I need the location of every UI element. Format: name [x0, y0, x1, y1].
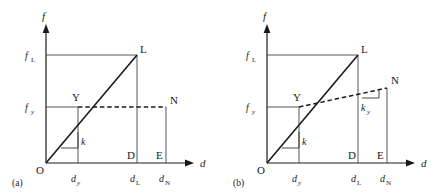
panel-caption-a: (a): [12, 178, 23, 189]
chart-panel-a: f d O f L f y d y d L d: [0, 0, 221, 194]
stiffness-ky-base-b: k: [361, 102, 366, 113]
figure-root: f d O f L f y d y d L d: [0, 0, 443, 194]
x-tick-dy-a: d y: [71, 173, 81, 187]
stiffness-ky-sub-b: y: [366, 108, 371, 116]
y-tick-fL-base-a: f: [25, 50, 29, 61]
y-tick-fL-a: f L: [25, 50, 35, 64]
x-axis-arrow-icon: [406, 160, 415, 167]
origin-label-a: O: [36, 164, 44, 176]
point-label-E-a: E: [156, 149, 163, 161]
y-tick-fL-sub-a: L: [31, 56, 35, 64]
y-tick-fy-base-a: f: [25, 102, 29, 113]
point-label-Y-a: Y: [72, 91, 80, 103]
x-tick-dN-sub-b: N: [386, 179, 391, 187]
point-label-Y-b: Y: [293, 91, 301, 103]
panel-a-svg: f d O f L f y d y d L d: [0, 0, 221, 194]
x-tick-dy-sub-a: y: [76, 179, 81, 187]
y-tick-fL-base-b: f: [246, 50, 250, 61]
stiffness-label-ky-b: k y: [361, 102, 371, 116]
point-label-D-a: D: [127, 149, 135, 161]
point-label-L-a: L: [140, 43, 147, 55]
point-label-L-b: L: [361, 43, 368, 55]
x-tick-dL-sub-b: L: [357, 179, 361, 187]
stiffness-label-k-a: k: [81, 136, 86, 147]
x-tick-dN-a: d N: [159, 173, 170, 187]
stiffness-label-k-b: k: [302, 136, 307, 147]
y-axis-arrow-icon: [43, 24, 50, 33]
y-axis-label-b: f: [263, 10, 268, 22]
x-axis-label-b: d: [421, 157, 427, 169]
stiffness-k-base-b: k: [302, 136, 307, 147]
y-tick-fy-base-b: f: [246, 102, 250, 113]
origin-label-b: O: [257, 164, 265, 176]
x-axis-arrow-icon: [185, 160, 194, 167]
y-tick-fL-b: f L: [246, 50, 256, 64]
y-axis-label-a: f: [42, 10, 47, 22]
y-axis-a: [43, 24, 50, 163]
x-tick-dL-a: d L: [130, 173, 140, 187]
y-tick-fy-b: f y: [246, 102, 256, 116]
x-tick-dN-b: d N: [380, 173, 391, 187]
point-label-E-b: E: [377, 149, 384, 161]
chart-panel-b: f d O f L f y d y d L d: [221, 0, 442, 194]
y-tick-fy-a: f y: [25, 102, 35, 116]
point-label-N-a: N: [170, 94, 178, 106]
panel-caption-b: (b): [233, 178, 244, 189]
x-tick-dL-b: d L: [351, 173, 361, 187]
y-tick-fL-sub-b: L: [252, 56, 256, 64]
x-tick-dL-sub-a: L: [136, 179, 140, 187]
x-axis-a: [46, 160, 194, 167]
y-tick-fy-sub-b: y: [251, 108, 256, 116]
x-axis-b: [267, 160, 415, 167]
point-label-N-b: N: [391, 74, 399, 86]
stiffness-k-base-a: k: [81, 136, 86, 147]
x-axis-label-a: d: [200, 157, 206, 169]
x-tick-dy-b: d y: [292, 173, 302, 187]
y-axis-b: [264, 24, 271, 163]
x-tick-dN-sub-a: N: [165, 179, 170, 187]
elastic-branch-a: [46, 55, 137, 163]
elastic-branch-b: [267, 55, 358, 163]
hardening-branch-b: [299, 88, 387, 107]
point-label-D-b: D: [348, 149, 356, 161]
panel-b-svg: f d O f L f y d y d L d: [221, 0, 442, 194]
y-axis-arrow-icon: [264, 24, 271, 33]
x-tick-dy-sub-b: y: [297, 179, 302, 187]
y-tick-fy-sub-a: y: [30, 108, 35, 116]
